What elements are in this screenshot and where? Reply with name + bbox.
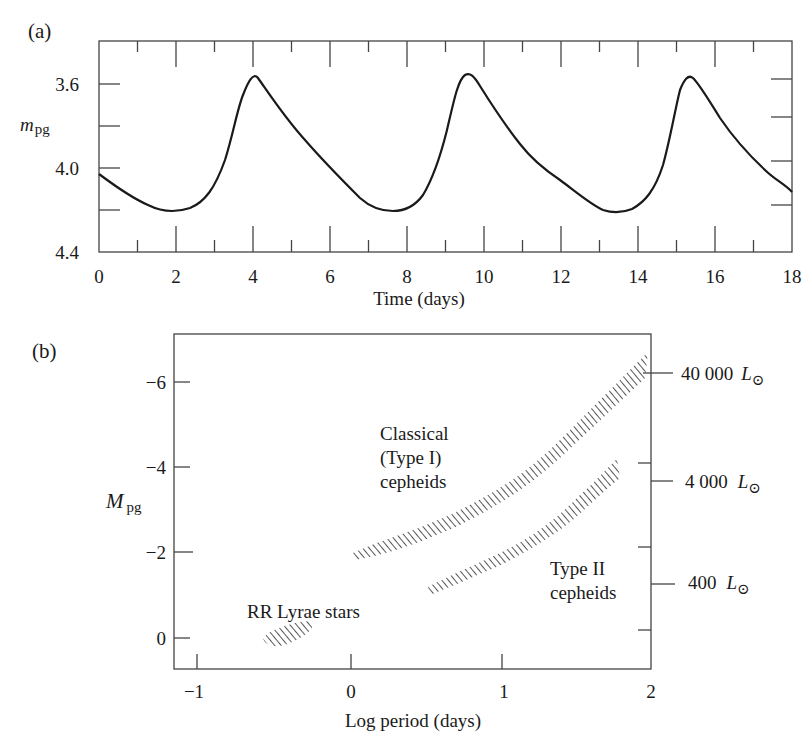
x-tick-label: −1 — [184, 681, 204, 702]
x-tick-label: 10 — [475, 266, 494, 287]
panel-b-luminosity-ticks — [643, 373, 675, 584]
panel-a-y-ticks — [99, 79, 792, 210]
classical-cepheids-label: Classical (Type I) cepheids — [380, 423, 449, 492]
y-tick-label: 4.4 — [55, 242, 79, 263]
x-tick-label: 0 — [94, 266, 104, 287]
panel-b-y-tick-labels: −6 −4 −2 0 — [146, 372, 167, 649]
x-tick-label: 8 — [402, 266, 412, 287]
rr-lyrae-label: RR Lyrae stars — [247, 601, 360, 622]
x-tick-label: 4 — [248, 266, 258, 287]
y-tick-label: 4.0 — [55, 158, 79, 179]
x-tick-label: 2 — [646, 681, 656, 702]
panel-b-y-axis-title: Mpg — [105, 489, 142, 515]
rr-lyrae-band — [263, 621, 313, 646]
panel-a-label: (a) — [28, 19, 51, 43]
panel-b-label: (b) — [32, 339, 57, 363]
luminosity-label-4000: 4 000L⊙ — [685, 471, 761, 496]
panel-a-x-tick-labels: 0 2 4 6 8 10 12 14 16 18 — [94, 266, 801, 287]
x-tick-label: 0 — [346, 681, 356, 702]
svg-text:cepheids: cepheids — [550, 582, 616, 603]
light-curve — [99, 74, 792, 212]
panel-b-x-tick-labels: −1 0 1 2 — [184, 681, 656, 702]
type-ii-cepheids-label: Type II cepheids — [550, 558, 616, 603]
luminosity-label-40000: 40 000L⊙ — [681, 363, 764, 388]
x-tick-label: 12 — [552, 266, 571, 287]
y-tick-label: −6 — [146, 372, 166, 393]
figure: (a) — [0, 0, 812, 752]
x-tick-label: 14 — [629, 266, 649, 287]
x-tick-label: 2 — [171, 266, 181, 287]
svg-text:cepheids: cepheids — [380, 471, 446, 492]
x-tick-label: 1 — [499, 681, 509, 702]
panel-a-x-axis-title: Time (days) — [373, 288, 465, 310]
x-tick-label: 16 — [706, 266, 725, 287]
x-tick-label: 18 — [783, 266, 802, 287]
panel-b-luminosity-labels: 40 000L⊙ 4 000L⊙ 400L⊙ — [681, 363, 764, 597]
panel-a-y-axis-title: mpg — [20, 114, 50, 137]
panel-a: (a) — [20, 19, 802, 310]
panel-b-x-ticks — [197, 654, 502, 669]
y-tick-label: 0 — [157, 628, 167, 649]
svg-text:Classical: Classical — [380, 423, 449, 444]
luminosity-label-400: 400L⊙ — [688, 572, 750, 597]
svg-text:Type II: Type II — [550, 558, 605, 579]
panel-a-frame — [99, 41, 792, 252]
panel-a-y-tick-labels: 3.6 4.0 4.4 — [55, 74, 79, 263]
y-tick-label: 3.6 — [55, 74, 79, 95]
y-tick-label: −4 — [146, 457, 167, 478]
svg-text:(Type I): (Type I) — [380, 447, 441, 469]
panel-b-x-axis-title: Log period (days) — [345, 710, 481, 732]
y-tick-label: −2 — [146, 542, 166, 563]
x-tick-label: 6 — [325, 266, 335, 287]
panel-b: (b) −6 −4 −2 0 — [32, 334, 764, 732]
